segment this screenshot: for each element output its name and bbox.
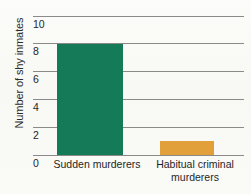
x-tick-label-line1: Habitual criminal xyxy=(141,158,249,171)
y-tick-label-2: 2 xyxy=(33,129,55,141)
y-tick-label-6: 6 xyxy=(33,73,55,85)
x-tick-label-line2: murderers xyxy=(141,171,249,184)
plot-area: 10 8 6 4 2 0 xyxy=(33,10,244,156)
x-tick-label-sudden-murderers: Sudden murderers xyxy=(47,158,147,171)
gridline-10 xyxy=(33,16,244,17)
y-tick-label-8: 8 xyxy=(33,45,55,57)
x-tick-label-line1: Sudden murderers xyxy=(47,158,147,171)
y-tick-label-4: 4 xyxy=(33,101,55,113)
y-axis-title: Number of shy inmates xyxy=(13,0,25,148)
bar-chart: Number of shy inmates 10 8 6 4 2 0 Sudde… xyxy=(0,0,251,194)
axis-baseline xyxy=(33,155,244,156)
bar-habitual-criminal-murderers xyxy=(160,141,214,155)
bar-sudden-murderers xyxy=(57,44,123,155)
y-tick-label-10: 10 xyxy=(33,18,55,30)
x-tick-label-habitual-criminal-murderers: Habitual criminal murderers xyxy=(141,158,249,183)
